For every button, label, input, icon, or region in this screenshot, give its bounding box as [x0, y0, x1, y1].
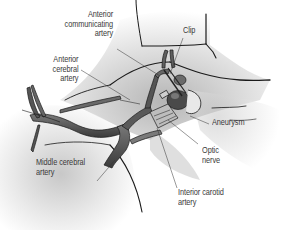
anatomy-illustration: Anterior communicating artery Anterior c…	[0, 0, 286, 230]
label-aneurysm: Aneurysm	[212, 118, 244, 128]
label-anterior-cerebral-artery: Anterior cerebral artery	[52, 55, 78, 84]
label-middle-cerebral-artery: Middle cerebral artery	[36, 158, 85, 177]
label-interior-carotid-artery: Interior carotid artery	[178, 188, 224, 207]
brain-vessel-drawing	[0, 0, 286, 230]
label-clip: Clip	[183, 26, 195, 36]
label-optic-nerve: Optic nerve	[202, 146, 220, 165]
label-anterior-communicating-artery: Anterior communicating artery	[65, 10, 113, 39]
